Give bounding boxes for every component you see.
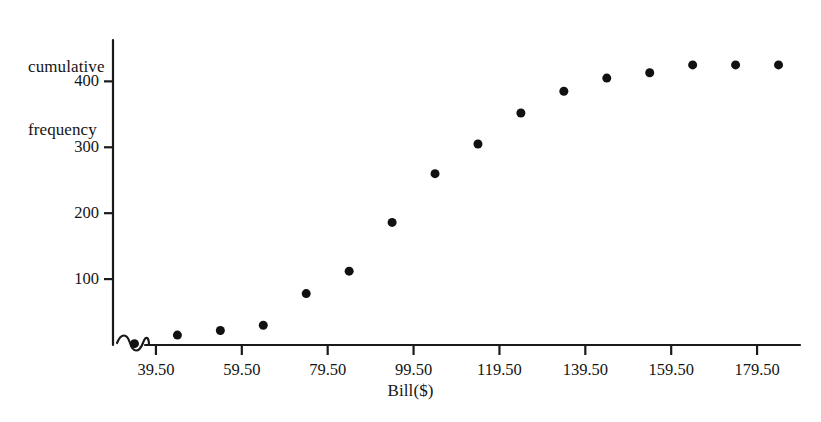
data-points	[130, 60, 783, 348]
y-axis-tick-label: 400	[74, 72, 99, 90]
data-point	[259, 321, 268, 330]
x-axis-tick-label: 59.50	[223, 361, 260, 379]
data-point	[731, 60, 740, 69]
plot-area	[0, 0, 821, 422]
x-axis-tick-label: 99.50	[395, 361, 432, 379]
cumulative-frequency-chart: cumulative frequency Bill($) 10020030040…	[0, 0, 821, 422]
data-point	[130, 339, 139, 348]
x-axis-tick-label: 39.50	[137, 361, 174, 379]
data-point	[216, 326, 225, 335]
y-axis-ticks	[104, 81, 113, 279]
data-point	[645, 68, 654, 77]
x-axis-tick-label: 179.50	[734, 361, 779, 379]
x-axis-tick-label: 119.50	[477, 361, 522, 379]
y-axis-tick-label: 100	[74, 270, 99, 288]
x-axis-ticks	[156, 345, 757, 355]
data-point	[345, 267, 354, 276]
axes	[113, 40, 800, 351]
data-point	[431, 169, 440, 178]
y-axis-tick-label: 300	[74, 138, 99, 156]
data-point	[173, 331, 182, 340]
data-point	[559, 87, 568, 96]
data-point	[774, 60, 783, 69]
data-point	[302, 289, 311, 298]
x-axis-tick-label: 79.50	[309, 361, 346, 379]
data-point	[688, 60, 697, 69]
x-axis-tick-label: 159.50	[649, 361, 694, 379]
data-point	[516, 109, 525, 118]
y-axis-tick-label: 200	[74, 204, 99, 222]
data-point	[602, 74, 611, 83]
data-point	[473, 139, 482, 148]
x-axis-tick-label: 139.50	[563, 361, 608, 379]
data-point	[388, 218, 397, 227]
